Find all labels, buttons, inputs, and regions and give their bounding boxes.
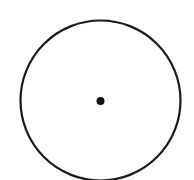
center-point xyxy=(97,97,105,105)
diagram-canvas xyxy=(0,0,194,180)
